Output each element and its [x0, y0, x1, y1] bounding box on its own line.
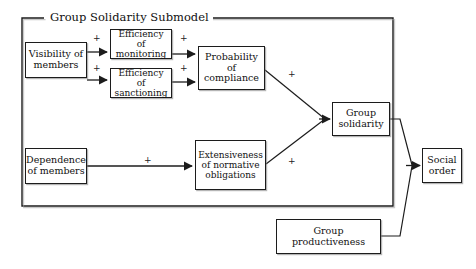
node-group-solidarity-label: Group solidarity — [336, 108, 385, 129]
edge-solidarity-social-order — [390, 119, 412, 165]
node-extensiveness-of-normative-obligations-label: Extensiveness of normative obligations — [196, 150, 265, 180]
node-efficiency-of-sanctioning[interactable]: Efficiency of sanctioning — [110, 68, 172, 98]
node-social-order-label: Social order — [425, 155, 458, 176]
node-group-productiveness-label: Group productiveness — [290, 226, 367, 247]
node-social-order[interactable]: Social order — [422, 148, 462, 183]
edge-sign-probability-solidarity: + — [288, 70, 296, 79]
edge-sign-visibility-monitoring: + — [93, 34, 101, 43]
node-group-solidarity[interactable]: Group solidarity — [332, 102, 390, 136]
node-probability-of-compliance[interactable]: Probability of compliance — [198, 46, 265, 90]
edge-sign-dependence-extensiveness: + — [144, 156, 152, 165]
node-efficiency-of-monitoring-label: Efficiency of monitoring — [111, 29, 171, 59]
node-visibility-of-members-label: Visibility of members — [27, 49, 85, 70]
node-dependence-of-members[interactable]: Dependence of members — [25, 148, 87, 184]
node-visibility-of-members[interactable]: Visibility of members — [25, 42, 87, 78]
edge-sign-visibility-sanctioning: + — [93, 64, 101, 73]
node-efficiency-of-monitoring[interactable]: Efficiency of monitoring — [110, 29, 172, 59]
node-efficiency-of-sanctioning-label: Efficiency of sanctioning — [111, 68, 171, 98]
node-probability-of-compliance-label: Probability of compliance — [199, 52, 264, 84]
edge-sign-monitoring-probability: + — [180, 34, 188, 43]
node-extensiveness-of-normative-obligations[interactable]: Extensiveness of normative obligations — [195, 140, 266, 190]
edge-sign-sanctioning-probability: + — [180, 64, 188, 73]
diagram-canvas: Group Solidarity Submodel Visibility of … — [0, 0, 476, 269]
edge-sign-extensiveness-solidarity: + — [288, 157, 296, 166]
node-group-productiveness[interactable]: Group productiveness — [276, 219, 381, 254]
node-dependence-of-members-label: Dependence of members — [24, 155, 88, 176]
submodel-frame-title: Group Solidarity Submodel — [46, 10, 213, 24]
diagram-connectors — [0, 0, 476, 269]
edge-productiveness-social-order — [381, 166, 412, 236]
